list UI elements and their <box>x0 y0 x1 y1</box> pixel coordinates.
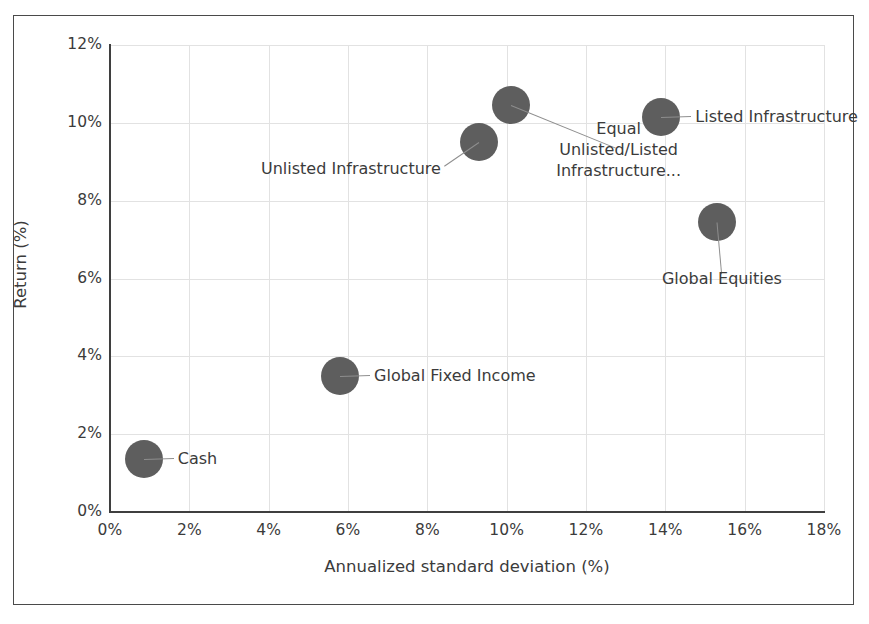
x-axis-tick-label: 10% <box>467 523 547 539</box>
gridline-horizontal <box>110 201 824 202</box>
y-axis-tick-label: 6% <box>42 271 102 287</box>
chart-figure: 12%10%8%6%4%2%0% 0%2%4%6%8%10%12%14%16%1… <box>0 0 869 624</box>
x-axis-title: Annualized standard deviation (%) <box>110 557 824 576</box>
x-axis-line <box>109 511 825 513</box>
y-axis-tick-label: 4% <box>42 348 102 364</box>
x-axis-tick-label: 12% <box>546 523 626 539</box>
x-axis-tick-label: 16% <box>705 523 785 539</box>
gridline-horizontal <box>110 45 824 46</box>
y-axis-tick-label: 12% <box>42 37 102 53</box>
y-axis-tick-label: 2% <box>42 426 102 442</box>
x-axis-tick-label: 0% <box>70 523 150 539</box>
y-axis-tick-label: 8% <box>42 193 102 209</box>
x-axis-tick-label: 8% <box>387 523 467 539</box>
x-axis-tick-label: 2% <box>149 523 229 539</box>
gridline-horizontal <box>110 356 824 357</box>
y-axis-tick-label: 0% <box>42 504 102 520</box>
data-point-label: Global Equities <box>572 268 869 289</box>
y-axis-line <box>109 44 111 513</box>
data-point-label: Listed Infrastructure <box>695 106 858 127</box>
y-axis-tick-label: 10% <box>42 115 102 131</box>
x-axis-tick-label: 18% <box>784 523 864 539</box>
data-point-label: Equal Unlisted/Listed Infrastructure... <box>469 118 769 181</box>
x-axis-tick-label: 6% <box>308 523 388 539</box>
data-point-label: Unlisted Infrastructure <box>141 158 441 179</box>
x-axis-tick-label: 4% <box>229 523 309 539</box>
data-point-label: Cash <box>178 448 217 469</box>
data-point-label: Global Fixed Income <box>374 365 536 386</box>
x-axis-ticks: 0%2%4%6%8%10%12%14%16%18% <box>0 523 869 553</box>
y-axis-title: Return (%) <box>11 185 30 345</box>
x-axis-tick-label: 14% <box>625 523 705 539</box>
gridline-horizontal <box>110 434 824 435</box>
